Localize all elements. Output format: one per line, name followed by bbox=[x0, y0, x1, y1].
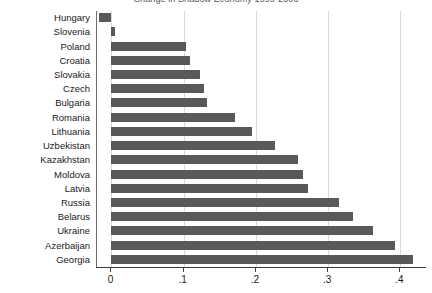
chart-title: Change in Shadow Economy 1999-2006 bbox=[0, 0, 432, 4]
bar bbox=[111, 56, 190, 65]
bar-row bbox=[97, 170, 426, 180]
x-axis-tick bbox=[255, 268, 256, 272]
bar-row bbox=[97, 241, 426, 251]
x-axis-tick-label: 0 bbox=[95, 274, 125, 285]
x-axis-tick bbox=[183, 268, 184, 272]
bar bbox=[111, 127, 252, 136]
y-axis-label: Lithuania bbox=[0, 126, 90, 137]
y-axis-label: Russia bbox=[0, 197, 90, 208]
y-axis-label: Czech bbox=[0, 83, 90, 94]
plot-area bbox=[96, 11, 426, 267]
y-axis-label: Hungary bbox=[0, 12, 90, 23]
bar-row bbox=[97, 127, 426, 137]
bar bbox=[111, 42, 185, 51]
x-axis-tick bbox=[110, 268, 111, 272]
x-axis-tick-label: .4 bbox=[384, 274, 414, 285]
y-axis-label: Ukraine bbox=[0, 225, 90, 236]
x-axis-tick bbox=[327, 268, 328, 272]
bar-chart: Change in Shadow Economy 1999-2006 Hunga… bbox=[0, 0, 432, 293]
bar bbox=[111, 226, 372, 235]
bar-row bbox=[97, 42, 426, 52]
bar bbox=[111, 198, 338, 207]
y-axis-label: Uzbekistan bbox=[0, 140, 90, 151]
bar bbox=[111, 155, 298, 164]
y-axis-label: Azerbaijan bbox=[0, 240, 90, 251]
bar bbox=[111, 241, 394, 250]
bar-row bbox=[97, 212, 426, 222]
y-axis-label: Latvia bbox=[0, 183, 90, 194]
bar bbox=[111, 98, 207, 107]
bar-row bbox=[97, 141, 426, 151]
bar-row bbox=[97, 155, 426, 165]
x-axis-tick-label: .3 bbox=[312, 274, 342, 285]
bar-row bbox=[97, 198, 426, 208]
y-axis-label: Poland bbox=[0, 41, 90, 52]
plot-inner bbox=[97, 11, 426, 267]
x-axis-tick-label: .2 bbox=[240, 274, 270, 285]
bar-row bbox=[97, 184, 426, 194]
y-axis-label: Bulgaria bbox=[0, 97, 90, 108]
y-axis-labels: HungarySloveniaPolandCroatiaSlovakiaCzec… bbox=[0, 11, 90, 267]
y-axis-label: Kazakhstan bbox=[0, 154, 90, 165]
bar-row bbox=[97, 84, 426, 94]
bar bbox=[111, 170, 302, 179]
bar-row bbox=[97, 56, 426, 66]
bar bbox=[111, 212, 353, 221]
bar bbox=[111, 184, 307, 193]
bar bbox=[99, 13, 111, 22]
bar bbox=[111, 113, 234, 122]
y-axis-label: Moldova bbox=[0, 169, 90, 180]
bar-row bbox=[97, 226, 426, 236]
x-axis-tick bbox=[399, 268, 400, 272]
bar bbox=[111, 141, 275, 150]
y-axis-label: Belarus bbox=[0, 211, 90, 222]
y-axis-label: Slovenia bbox=[0, 26, 90, 37]
y-axis-label: Romania bbox=[0, 112, 90, 123]
y-axis-label: Slovakia bbox=[0, 69, 90, 80]
bar bbox=[111, 255, 413, 264]
bar bbox=[111, 27, 115, 36]
bar-row bbox=[97, 27, 426, 37]
bar bbox=[111, 84, 203, 93]
bar-row bbox=[97, 70, 426, 80]
y-axis-label: Georgia bbox=[0, 254, 90, 265]
bar-row bbox=[97, 13, 426, 23]
bar-row bbox=[97, 113, 426, 123]
bar-row bbox=[97, 255, 426, 265]
bar-row bbox=[97, 98, 426, 108]
x-axis-tick-label: .1 bbox=[168, 274, 198, 285]
bar bbox=[111, 70, 199, 79]
y-axis-label: Croatia bbox=[0, 55, 90, 66]
x-axis-line bbox=[96, 267, 426, 268]
